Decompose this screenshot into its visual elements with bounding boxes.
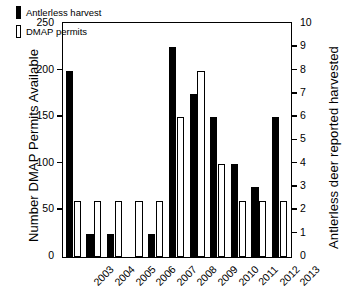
bar-group: [66, 23, 81, 257]
bar-antlerless-harvest: [86, 234, 93, 257]
y-tick-label-right: 8: [300, 63, 306, 75]
bar-group: [251, 23, 266, 257]
y-tick-right: [291, 92, 297, 94]
y-tick-left: [57, 208, 63, 210]
y-tick-label-left: 0: [48, 249, 54, 261]
y-tick-label-left: 100: [36, 156, 54, 168]
y-tick-label-right: 5: [300, 132, 306, 144]
x-tick-label: 2012: [277, 263, 302, 288]
bar-antlerless-harvest: [231, 164, 238, 257]
chart-legend: Antlerless harvestDMAP permits: [16, 6, 102, 44]
y-tick-label-right: 0: [300, 249, 306, 261]
bar-dmap-permits: [280, 201, 287, 257]
x-tick-label: 2011: [256, 263, 280, 287]
bar-group: [86, 23, 101, 257]
bar-group: [128, 23, 143, 257]
bar-antlerless-harvest: [190, 94, 197, 257]
bar-antlerless-harvest: [169, 47, 176, 257]
bar-group: [272, 23, 287, 257]
bar-dmap-permits: [177, 117, 184, 257]
bar-group: [169, 23, 184, 257]
bar-dmap-permits: [239, 201, 246, 257]
y-tick-label-right: 2: [300, 202, 306, 214]
y-tick-left: [57, 162, 63, 164]
plot-area: 050100150200250012345678910: [62, 22, 292, 258]
y-tick-left: [57, 115, 63, 117]
x-tick-label: 2004: [112, 263, 137, 288]
y-tick-label-right: 9: [300, 39, 306, 51]
bar-dmap-permits: [115, 201, 122, 257]
bar-group: [210, 23, 225, 257]
bar-group: [107, 23, 122, 257]
legend-item: DMAP permits: [16, 25, 102, 37]
bar-antlerless-harvest: [107, 234, 114, 257]
bar-group: [148, 23, 163, 257]
bars-container: [63, 23, 291, 257]
x-tick-label: 2005: [132, 263, 157, 288]
bar-antlerless-harvest: [148, 234, 155, 257]
x-tick-label: 2007: [174, 263, 199, 288]
y-axis-title-right: Antlerless deer reported harvested: [326, 28, 341, 268]
x-tick-label: 2003: [91, 263, 116, 288]
y-tick-label-left: 150: [36, 109, 54, 121]
y-tick-right: [291, 162, 297, 164]
x-tick-label: 2006: [153, 263, 178, 288]
y-tick-right: [291, 139, 297, 141]
y-tick-label-right: 6: [300, 109, 306, 121]
y-axis-title-left: Number DMAP Permits Available: [26, 26, 41, 266]
bar-antlerless-harvest: [66, 71, 73, 257]
x-tick-label: 2009: [215, 263, 240, 288]
y-tick-right: [291, 185, 297, 187]
bar-dmap-permits: [259, 201, 266, 257]
bar-dmap-permits: [135, 201, 142, 257]
x-tick-label: 2013: [297, 263, 322, 288]
bar-group: [190, 23, 205, 257]
bar-dmap-permits: [197, 71, 204, 257]
legend-swatch-icon: [16, 25, 21, 38]
bar-antlerless-harvest: [272, 117, 279, 257]
legend-label: DMAP permits: [26, 26, 87, 37]
y-tick-right: [291, 208, 297, 210]
y-tick-label-right: 7: [300, 86, 306, 98]
bar-dmap-permits: [156, 201, 163, 257]
dual-axis-bar-chart: Number DMAP Permits Available Antlerless…: [0, 0, 344, 304]
x-tick-label: 2008: [194, 263, 219, 288]
bar-group: [231, 23, 246, 257]
y-tick-label-right: 10: [300, 16, 312, 28]
y-tick-label-right: 1: [300, 226, 306, 238]
y-tick-left: [57, 69, 63, 71]
bar-antlerless-harvest: [251, 187, 258, 257]
bar-dmap-permits: [74, 201, 81, 257]
bar-antlerless-harvest: [210, 117, 217, 257]
y-tick-label-right: 3: [300, 179, 306, 191]
y-tick-right: [291, 69, 297, 71]
y-tick-label-left: 50: [42, 202, 54, 214]
bar-dmap-permits: [218, 164, 225, 257]
y-tick-right: [291, 45, 297, 47]
x-tick-label: 2010: [235, 263, 260, 288]
y-tick-label-left: 200: [36, 63, 54, 75]
y-tick-right: [291, 232, 297, 234]
y-tick-label-right: 4: [300, 156, 306, 168]
y-tick-right: [291, 115, 297, 117]
legend-swatch-icon: [16, 6, 21, 19]
bar-dmap-permits: [94, 201, 101, 257]
legend-label: Antlerless harvest: [26, 7, 102, 18]
legend-item: Antlerless harvest: [16, 6, 102, 18]
